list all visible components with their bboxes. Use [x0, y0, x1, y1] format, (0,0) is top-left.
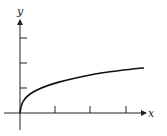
x-axis-label: x: [148, 107, 155, 120]
sqrt-curve: [20, 68, 144, 113]
sqrt-graph: x y: [0, 0, 167, 136]
y-axis-label: y: [16, 5, 24, 18]
x-axis: [4, 106, 146, 113]
